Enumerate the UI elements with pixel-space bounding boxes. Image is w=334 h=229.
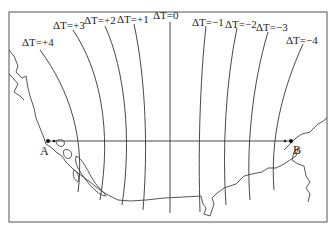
isoline-minus1 [199,26,206,212]
coastlines [9,50,327,216]
island-2 [63,150,71,159]
label-plus1: ΔT=+1 [117,13,149,25]
isoline-minus2 [224,28,237,205]
point-a-label: A [40,144,49,158]
isoline-map-diagram: ΔT=+4 ΔT=+3 ΔT=+2 ΔT=+1 ΔT=0 ΔT=−1 ΔT=−2… [0,0,334,229]
map-frame [9,12,327,222]
label-minus2: ΔT=−2 [225,18,257,30]
island-4 [73,170,79,182]
isoline-minus3 [249,32,268,200]
coast-east-north [284,118,327,150]
label-plus2: ΔT=+2 [84,14,116,26]
point-a-tick [53,140,55,142]
isolines [40,22,303,213]
isoline-plus1 [134,24,146,210]
point-b-tick [284,140,286,142]
label-zero: ΔT=0 [153,9,179,21]
coast-west-south [9,50,201,201]
isoline-plus2 [105,26,127,205]
label-minus1: ΔT=−1 [192,16,224,28]
label-plus4: ΔT=+4 [22,36,54,48]
point-b-label: B [293,143,301,157]
label-plus3: ΔT=+3 [53,19,85,31]
point-a-marker [46,139,50,143]
label-minus4: ΔT=−4 [286,34,318,46]
coast-gulf [201,148,298,216]
label-minus3: ΔT=−3 [256,21,288,33]
isoline-minus4 [273,44,303,190]
island-3 [76,156,106,196]
